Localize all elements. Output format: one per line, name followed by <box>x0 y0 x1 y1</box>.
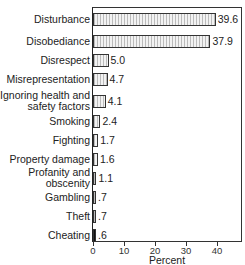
bar <box>93 229 96 242</box>
category-label: Ignoring health and safety factors <box>0 90 90 112</box>
category-label: Profanity and obscenity <box>28 167 90 189</box>
category-label: Disobediance <box>26 36 90 47</box>
category-label: Gambling <box>45 192 90 203</box>
horizontal-bar-chart: Disturbance39.6Disobediance37.9Disrespec… <box>0 0 245 265</box>
value-label: 1.6 <box>100 153 115 166</box>
x-axis-label: Percent <box>149 254 185 265</box>
category-label: Fighting <box>53 135 90 146</box>
value-label: .6 <box>98 229 107 242</box>
category-label: Property damage <box>9 154 90 165</box>
bar <box>93 172 96 185</box>
bar <box>93 115 100 128</box>
value-label: .7 <box>98 191 107 204</box>
x-tick-label: 10 <box>119 245 130 256</box>
bar <box>93 95 106 108</box>
value-label: 5.0 <box>111 54 126 67</box>
category-label: Disturbance <box>34 14 90 25</box>
value-label: 39.6 <box>218 13 238 26</box>
value-label: 1.7 <box>100 134 115 147</box>
bar <box>93 153 98 166</box>
category-label: Smoking <box>49 116 90 127</box>
bar <box>93 73 108 86</box>
category-label: Cheating <box>48 230 90 241</box>
value-label: 37.9 <box>212 35 232 48</box>
x-tick-label: 40 <box>212 245 223 256</box>
bar <box>93 134 98 147</box>
bar <box>93 191 96 204</box>
value-label: 4.7 <box>110 73 125 86</box>
bar <box>93 35 210 48</box>
value-label: 4.1 <box>108 95 123 108</box>
bar <box>93 54 109 67</box>
bar <box>93 210 96 223</box>
x-tick-label: 0 <box>90 245 95 256</box>
bar <box>93 13 216 26</box>
value-label: 1.1 <box>98 172 113 185</box>
category-label: Theft <box>66 211 90 222</box>
value-label: .7 <box>98 210 107 223</box>
category-label: Disrespect <box>40 55 90 66</box>
value-label: 2.4 <box>102 115 117 128</box>
category-label: Misrepresentation <box>7 74 90 85</box>
